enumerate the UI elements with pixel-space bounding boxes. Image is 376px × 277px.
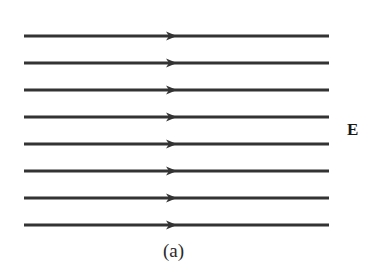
field-line [24, 32, 329, 41]
field-line [24, 59, 329, 68]
field-line [24, 140, 329, 149]
field-line [24, 194, 329, 203]
figure-caption: (a) [163, 241, 184, 260]
field-line [24, 86, 329, 95]
field-line [24, 113, 329, 122]
electric-field-figure: E (a) [0, 0, 376, 277]
field-line [24, 221, 329, 230]
field-lines-diagram [0, 0, 376, 277]
field-label-e: E [347, 121, 358, 138]
field-line [24, 167, 329, 176]
